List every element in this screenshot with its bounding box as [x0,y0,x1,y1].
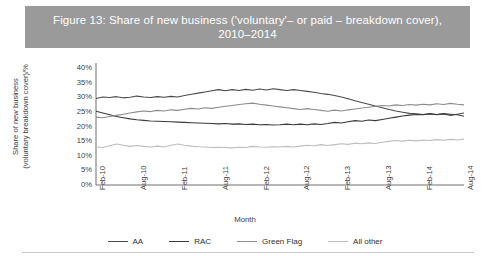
x-axis-title: Month [0,215,490,224]
chart-legend: AARACGreen FlagAll other [0,234,490,248]
legend-item-aa[interactable]: AA [108,237,144,246]
legend-label: All other [353,237,382,246]
plot-lines [0,55,490,230]
figure-title-banner: Figure 13: Share of new business ('volun… [25,6,470,48]
series-line-all-other [96,139,464,148]
chart-area: Share of new business (voluntary breakdo… [0,55,490,230]
legend-line-swatch [237,241,257,242]
legend-label: AA [133,237,144,246]
legend-item-rac[interactable]: RAC [169,237,211,246]
legend-item-all-other[interactable]: All other [328,237,382,246]
legend-label: RAC [194,237,211,246]
legend-line-swatch [169,241,189,242]
bottom-divider [22,252,474,253]
legend-label: Green Flag [262,237,302,246]
legend-line-swatch [108,241,128,242]
legend-item-green-flag[interactable]: Green Flag [237,237,302,246]
figure-container: Figure 13: Share of new business ('volun… [0,0,490,259]
legend-line-swatch [328,241,348,242]
figure-title: Figure 13: Share of new business ('volun… [43,13,452,41]
